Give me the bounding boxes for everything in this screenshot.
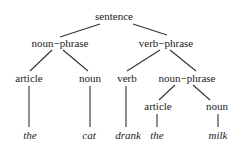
tree-nodes: sentence noun−phrase verb−phrase article…	[15, 10, 228, 112]
leaf-drank: drank	[115, 129, 142, 141]
leaf-milk: milk	[209, 129, 229, 141]
edge-vp-np2	[170, 50, 196, 71]
node-article-2: article	[144, 100, 172, 112]
edge-vp-verb	[127, 50, 160, 71]
edge-np2-article	[159, 85, 175, 100]
node-sentence: sentence	[95, 10, 133, 22]
edge-np-noun	[63, 50, 88, 71]
leaf-the-2: the	[150, 129, 164, 141]
node-noun-phrase: noun−phrase	[32, 37, 89, 49]
parse-tree-diagram: sentence noun−phrase verb−phrase article…	[0, 0, 241, 151]
edge-np2-noun	[193, 85, 210, 100]
node-noun-phrase-2: noun−phrase	[159, 72, 216, 84]
edge-sentence-vp	[133, 24, 167, 35]
node-verb: verb	[117, 72, 137, 84]
node-article: article	[15, 72, 43, 84]
leaf-cat: cat	[82, 129, 96, 141]
node-verb-phrase: verb−phrase	[139, 37, 194, 49]
tree-leaves: the cat drank the milk	[23, 129, 228, 141]
edge-np-article	[30, 50, 52, 71]
node-noun-2: noun	[206, 100, 229, 112]
leaf-the: the	[23, 129, 37, 141]
edge-sentence-np	[60, 24, 100, 37]
node-noun: noun	[79, 72, 102, 84]
